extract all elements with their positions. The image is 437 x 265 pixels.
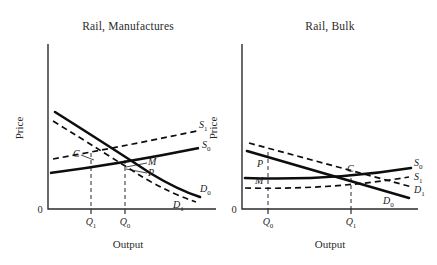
x-axis-label-bulk: Output <box>315 238 346 250</box>
y-axis-label-manufactures: Price <box>13 117 25 140</box>
economics-figure: Rail, Manufactures 0 Price Output Q1 Q0 … <box>0 0 437 265</box>
point-label-p-bulk: P <box>256 158 263 169</box>
y-axis-label-bulk: Price <box>207 117 219 140</box>
panel-title-bulk: Rail, Bulk <box>305 20 354 33</box>
point-label-m-bulk: M <box>254 175 264 186</box>
point-label-c-manufactures: C <box>73 148 80 159</box>
x-axis-label-manufactures: Output <box>113 238 144 250</box>
origin-label-manufactures: 0 <box>37 204 42 215</box>
point-label-m-manufactures: M <box>147 156 157 167</box>
point-label-c-bulk: C <box>347 163 354 174</box>
panel-title-manufactures: Rail, Manufactures <box>82 20 174 33</box>
point-label-p-manufactures: P <box>147 167 154 178</box>
origin-label-bulk: 0 <box>231 204 236 215</box>
